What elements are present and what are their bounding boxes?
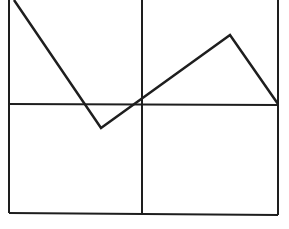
diagram-canvas xyxy=(0,0,289,229)
grid-horizontal-midline xyxy=(9,104,278,105)
diagram-background xyxy=(0,0,289,229)
